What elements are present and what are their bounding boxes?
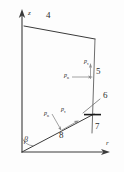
- boundary-segment-8: [22, 114, 94, 152]
- pressure-label-shear-inclined: pτ: [61, 106, 66, 114]
- boundary-label-5: 5: [96, 67, 101, 76]
- pressure-label-normal-inclined: pn: [44, 110, 49, 118]
- pressure-label-shear-right: pτ: [84, 58, 89, 66]
- leader-line-6: [83, 99, 100, 113]
- pressure-vector-normal-inclined: [52, 114, 62, 131]
- boundary-segment-4: [24, 26, 95, 39]
- r-axis: [22, 149, 110, 155]
- pressure-subscript: n: [67, 75, 69, 80]
- pressure-subscript: τ: [64, 109, 66, 114]
- pressure-subscript: n: [47, 113, 49, 118]
- boundary-segment-5-7: [92, 39, 95, 133]
- boundary-label-8: 8: [59, 131, 64, 140]
- boundary-label-6: 6: [103, 91, 108, 100]
- pressure-vector-normal-right: [72, 75, 93, 78]
- r-axis-label: r: [106, 140, 109, 147]
- z-axis: [19, 9, 25, 152]
- pressure-subscript: τ: [87, 61, 89, 66]
- z-axis-label: z: [28, 10, 31, 17]
- boundary-label-4: 4: [46, 11, 51, 20]
- boundary-label-7: 7: [95, 122, 100, 131]
- diagram-canvas: z r 4 5 6 7 8 β pn pτ pn pτ: [0, 0, 124, 172]
- pressure-vector-shear-inclined: [62, 120, 79, 130]
- beta-angle-label: β: [24, 136, 28, 144]
- pressure-label-normal-right: pn: [64, 72, 69, 80]
